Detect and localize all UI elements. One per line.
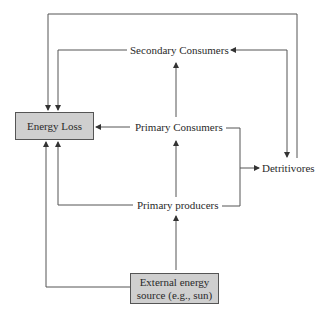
external-source-line2: source (e.g., sun) — [137, 289, 212, 302]
energy-loss-box: Energy Loss — [15, 112, 94, 140]
primary-consumers-label: Primary Consumers — [135, 121, 223, 134]
bracket-consumers-producers — [222, 128, 240, 206]
arrow-producers-to-energy-loss — [58, 142, 133, 205]
arrow-secondary-to-energy-loss — [58, 50, 127, 110]
arrow-external-to-energy-loss — [46, 142, 130, 287]
secondary-consumers-label: Secondary Consumers — [130, 44, 229, 57]
primary-producers-label: Primary producers — [137, 199, 219, 212]
energy-loss-label: Energy Loss — [27, 120, 82, 133]
detritivores-label: Detritivores — [262, 162, 315, 175]
external-energy-source-box: External energy source (e.g., sun) — [130, 273, 219, 304]
external-source-line1: External energy — [140, 276, 210, 289]
